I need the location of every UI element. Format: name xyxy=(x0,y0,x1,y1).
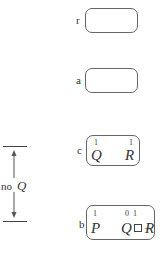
interval-bottom-line xyxy=(3,221,27,222)
state-label-r: r xyxy=(76,15,80,26)
atom-symbol-b-q: Q xyxy=(121,221,132,236)
state-box-b: 1 P 0 1 Q → R xyxy=(86,205,155,240)
atom-value-b-r: 1 xyxy=(133,210,137,218)
atom-value-b-p: 1 xyxy=(93,210,97,218)
interval-label: no xyxy=(1,181,12,192)
state-label-a: a xyxy=(76,75,81,86)
state-box-c: 1 Q 1 R xyxy=(86,135,140,166)
state-box-a xyxy=(85,68,138,93)
state-label-c: c xyxy=(77,145,82,156)
atom-value-b-q: 0 xyxy=(125,210,129,218)
atom-symbol-b-r: R xyxy=(145,221,154,236)
atom-value-c-r: 1 xyxy=(129,139,133,147)
interval-top-line xyxy=(3,146,27,147)
interval-symbol: Q xyxy=(17,179,26,192)
atom-symbol-c-r: R xyxy=(125,148,134,163)
atom-symbol-b-p: P xyxy=(91,221,100,236)
state-box-r xyxy=(85,8,138,33)
atom-symbol-c-q: Q xyxy=(91,148,102,163)
state-label-b: b xyxy=(79,219,85,230)
atom-value-c-q: 1 xyxy=(94,139,98,147)
